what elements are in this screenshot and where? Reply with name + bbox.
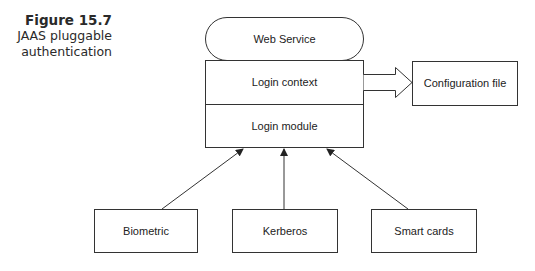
biometric-node: Biometric: [95, 210, 198, 253]
arrow-biometric-to-module: [162, 149, 243, 209]
configuration-file-node: Configuration file: [413, 62, 518, 106]
arrow-smartcards-to-module: [327, 149, 408, 209]
biometric-label: Biometric: [123, 225, 169, 237]
kerberos-label: Kerberos: [263, 225, 308, 237]
jaas-diagram: Web Service Login context Login module C…: [0, 0, 535, 271]
kerberos-node: Kerberos: [233, 210, 338, 253]
login-stack: Login context Login module: [206, 61, 364, 148]
web-service-node: Web Service: [206, 18, 364, 61]
web-service-label: Web Service: [253, 33, 315, 45]
configuration-file-label: Configuration file: [424, 77, 507, 89]
login-context-label: Login context: [252, 76, 317, 88]
login-module-label: Login module: [251, 120, 317, 132]
smart-cards-label: Smart cards: [394, 225, 454, 237]
smart-cards-node: Smart cards: [372, 210, 477, 253]
block-arrow-icon: [364, 68, 413, 98]
